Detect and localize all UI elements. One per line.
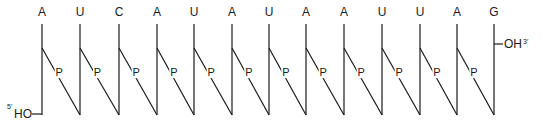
- phosphodiester-bond: [42, 48, 80, 115]
- phosphodiester-bond: [344, 48, 382, 115]
- phosphodiester-bond: [119, 48, 157, 115]
- phosphate-label: P: [470, 66, 477, 78]
- base-a-4: A: [153, 5, 161, 19]
- phosphate-label: P: [56, 66, 63, 78]
- three-prime-marker: 3′: [523, 38, 529, 45]
- phosphate-label: P: [433, 66, 440, 78]
- rna-backbone-diagram: APUPCPAPUPAPUPAPAPUPUPAPG5′HOOH3′ RNA st…: [0, 0, 543, 122]
- phosphodiester-bond: [194, 48, 232, 115]
- phosphate-label: P: [208, 66, 215, 78]
- phosphodiester-bond: [382, 48, 420, 115]
- base-u-5: U: [190, 5, 199, 19]
- phosphodiester-bond: [457, 48, 494, 115]
- five-prime-marker: 5′: [7, 103, 13, 110]
- phosphate-label: P: [320, 66, 327, 78]
- base-u-7: U: [265, 5, 274, 19]
- five-prime-hydroxyl: HO: [14, 107, 32, 121]
- base-u-2: U: [76, 5, 85, 19]
- phosphodiester-bond: [306, 48, 344, 115]
- base-a-12: A: [453, 5, 461, 19]
- base-u-11: U: [416, 5, 425, 19]
- base-a-1: A: [38, 5, 46, 19]
- phosphate-label: P: [133, 66, 140, 78]
- phosphate-label: P: [245, 66, 252, 78]
- phosphodiester-bond: [420, 48, 457, 115]
- three-prime-hydroxyl: OH: [504, 37, 522, 51]
- phosphodiester-bond: [232, 48, 269, 115]
- phosphate-label: P: [282, 66, 289, 78]
- base-u-10: U: [378, 5, 387, 19]
- phosphate-label: P: [358, 66, 365, 78]
- phosphodiester-bond: [80, 48, 119, 115]
- base-c-3: C: [115, 5, 124, 19]
- phosphate-label: P: [94, 66, 101, 78]
- diagram-canvas: APUPCPAPUPAPUPAPAPUPUPAPG5′HOOH3′: [0, 0, 543, 122]
- base-a-6: A: [228, 5, 236, 19]
- phosphate-label: P: [170, 66, 177, 78]
- base-a-8: A: [302, 5, 310, 19]
- base-g-13: G: [489, 5, 498, 19]
- phosphodiester-bond: [269, 48, 306, 115]
- phosphate-label: P: [396, 66, 403, 78]
- base-a-9: A: [340, 5, 348, 19]
- phosphodiester-bond: [157, 48, 194, 115]
